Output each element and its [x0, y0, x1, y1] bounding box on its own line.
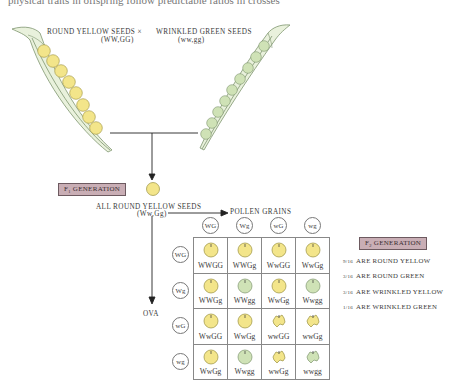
pollen-grains-label: POLLEN GRAINS [230, 208, 291, 216]
punnett-cell: WwGg [262, 274, 296, 310]
pollen-gamete: wg [304, 217, 321, 234]
genotype-label: wwGg [262, 367, 295, 376]
punnett-cell: wwGg [262, 345, 296, 381]
genotype-label: wwGG [262, 332, 295, 341]
round-yellow-seed-icon [203, 313, 219, 329]
punnett-cell: wwgg [296, 345, 330, 381]
ova-gamete: Wg [172, 282, 189, 299]
pollen-gamete: wG [270, 217, 287, 234]
f1-generation-badge: F1 GENERATION [58, 183, 126, 196]
punnett-cell: WWGg [194, 274, 228, 310]
ova-arrow-icon [149, 216, 155, 304]
wrinkled-yellow-seed-icon [271, 313, 287, 329]
parent-right-genotype: (ww,gg) [178, 36, 205, 44]
parent-right-label: WRINKLED GREEN SEEDS [156, 28, 252, 36]
punnett-cell: WwGG [262, 238, 296, 274]
round-green-seed-icon [305, 278, 321, 294]
cross-arrow-icon [110, 133, 198, 180]
round-yellow-seed-icon [203, 278, 219, 294]
genotype-label: WwGG [262, 261, 295, 270]
wrinkled-yellow-seed-icon [271, 349, 287, 365]
round-yellow-seed-icon [203, 349, 219, 365]
genotype-label: Wwgg [296, 296, 329, 305]
punnett-cell: WwGG [194, 309, 228, 345]
genotype-label: WwGg [194, 367, 227, 376]
genotype-label: wwGg [296, 332, 329, 341]
genotype-label: WwGG [194, 332, 227, 341]
round-green-seed-icon [237, 349, 253, 365]
ova-label: OVA [143, 310, 159, 318]
punnett-cell: WWgg [228, 274, 262, 310]
f1-genotype: (Ww,Gg) [137, 210, 167, 218]
genotype-label: WwGg [296, 261, 329, 270]
wrinkled-green-seed-icon [305, 349, 321, 365]
round-yellow-seed-icon [271, 242, 287, 258]
genotype-label: WwGg [228, 332, 261, 341]
parent-left-label: ROUND YELLOW SEEDS × [47, 28, 142, 36]
punnett-cell: Wwgg [228, 345, 262, 381]
f1-seed-icon [147, 183, 160, 196]
genotype-label: Wwgg [228, 367, 261, 376]
f2-ratio-wrinkled-yellow: 3/16ARE WRINKLED YELLOW [343, 288, 443, 295]
pollen-gamete: WG [202, 217, 219, 234]
cross-symbol: × [137, 28, 141, 36]
round-yellow-seed-icon [237, 313, 253, 329]
round-yellow-seed-icon [271, 278, 287, 294]
punnett-cell: WWGG [194, 238, 228, 274]
pollen-gamete: Wg [236, 217, 253, 234]
punnett-cell: WwGg [296, 238, 330, 274]
punnett-cell: WwGg [228, 309, 262, 345]
punnett-cell: Wwgg [296, 274, 330, 310]
ova-gamete: WG [172, 246, 189, 263]
f2-ratio-round-green: 3/16ARE ROUND GREEN [343, 272, 424, 279]
ova-gamete: wG [172, 317, 189, 334]
genotype-label: WwGg [262, 296, 295, 305]
yellow-pea-pod-icon [12, 27, 112, 152]
punnett-cell: WWGg [228, 238, 262, 274]
genotype-label: wwgg [296, 367, 329, 376]
f2-ratio-wrinkled-green: 1/16ARE WRINKLED GREEN [343, 303, 437, 310]
ova-gamete: wg [172, 353, 189, 370]
f2-generation-badge: F2 GENERATION [359, 237, 427, 250]
punnett-cell: wwGG [262, 309, 296, 345]
genotype-label: WWGg [194, 296, 227, 305]
round-yellow-seed-icon [203, 242, 219, 258]
genotype-label: WWGG [194, 261, 227, 270]
genotype-label: WWGg [228, 261, 261, 270]
round-yellow-seed-icon [237, 242, 253, 258]
f2-ratio-round-yellow: 9/16ARE ROUND YELLOW [343, 257, 431, 264]
wrinkled-yellow-seed-icon [305, 313, 321, 329]
genotype-label: WWgg [228, 296, 261, 305]
round-yellow-seed-icon [305, 242, 321, 258]
punnett-square: WWGGWWGgWwGGWwGgWWGgWWggWwGgWwggWwGGWwGg… [193, 237, 330, 380]
green-pea-pod-icon [200, 25, 290, 150]
round-green-seed-icon [237, 278, 253, 294]
parent-left-genotype: (WW,GG) [101, 36, 134, 44]
punnett-cell: wwGg [296, 309, 330, 345]
punnett-cell: WwGg [194, 345, 228, 381]
